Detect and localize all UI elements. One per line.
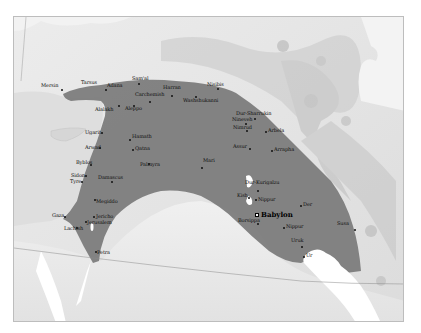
city-dot-samal [138, 83, 140, 85]
city-label: Susa [337, 221, 349, 226]
city-dot-hamath [129, 139, 131, 141]
city-label: Assur [233, 144, 247, 149]
city-dot-harran [171, 95, 173, 97]
city-label: Tarsus [81, 80, 97, 85]
city-dot-adana [105, 89, 107, 91]
city-label: Qatna [135, 146, 150, 151]
city-label: Nippur [286, 224, 303, 229]
capital-marker-babylon [255, 213, 259, 217]
city-label: Nisibis [207, 82, 224, 87]
city-label: Megiddo [96, 199, 118, 204]
city-dot-mari [201, 167, 203, 169]
city-label: Ugarit [85, 130, 101, 135]
city-dot-mersin [61, 89, 63, 91]
city-dot-nippur-south [283, 227, 285, 229]
city-label: Carchemish [135, 92, 164, 97]
city-label: Borsippa [238, 218, 260, 223]
city-dot-dur-sharrukin [254, 118, 256, 120]
city-label: Palmyra [140, 162, 160, 167]
map-canvas [14, 17, 404, 322]
city-label: Nineveh [232, 117, 252, 122]
city-label: Adana [107, 83, 123, 88]
city-label: Washshukanni [183, 98, 218, 103]
city-dot-alalakh [118, 105, 120, 107]
city-dot-ur [303, 256, 305, 258]
city-label: Damascus [98, 175, 123, 180]
city-label: Hamath [132, 134, 152, 139]
city-dot-dur-kurigalzu [257, 190, 259, 192]
city-dot-carchemish [149, 101, 151, 103]
city-dot-sidon [85, 175, 87, 177]
capital-label-babylon: Babylon [261, 211, 293, 218]
city-dot-tyre [81, 181, 83, 183]
city-dot-borsippa [257, 223, 259, 225]
city-dot-nimrud [246, 130, 248, 132]
city-label: Arrapha [274, 147, 294, 152]
city-dot-der [300, 205, 302, 207]
city-dot-arrapha [271, 150, 273, 152]
city-label: Mari [203, 158, 215, 163]
city-dot-jericho [93, 216, 95, 218]
city-label: Uruk [291, 238, 303, 243]
city-dot-uruk [301, 246, 303, 248]
city-dot-kish [248, 197, 250, 199]
city-dot-ugarit [101, 132, 103, 134]
city-label: Aleppo [125, 106, 142, 111]
city-label: Dur-Kurigalzu [245, 180, 279, 185]
city-label: Nimrud [233, 125, 252, 130]
city-dot-damascus [111, 181, 113, 183]
city-label: Nippur [258, 197, 275, 202]
city-label: Der [303, 202, 312, 207]
city-dot-qatna [132, 149, 134, 151]
city-label: Ur [306, 253, 312, 258]
city-dot-arbela [265, 131, 267, 133]
city-dot-nippur [255, 199, 257, 201]
city-label: Sam'al [132, 76, 149, 81]
city-label: Lachish [64, 226, 83, 231]
city-label: Petra [97, 250, 110, 255]
city-label: Arbela [268, 128, 284, 133]
city-label: Gaza [52, 213, 64, 218]
city-dot-nisibis [217, 88, 219, 90]
city-label: Tyre [70, 179, 81, 184]
city-label: Harran [163, 85, 181, 90]
city-label: Arwad [85, 145, 101, 150]
city-label: Mersin [41, 83, 58, 88]
city-dot-assur [249, 148, 251, 150]
city-dot-susa [354, 229, 356, 231]
map-frame: Mersin Tarsus Adana Sam'al Harran Nisibi… [13, 16, 404, 322]
city-label: Kish [237, 193, 248, 198]
city-label: Jerusalem [87, 220, 112, 225]
city-dot-gaza [64, 216, 66, 218]
city-label: Byblos [76, 160, 92, 165]
city-label: Alalakh [95, 107, 113, 112]
